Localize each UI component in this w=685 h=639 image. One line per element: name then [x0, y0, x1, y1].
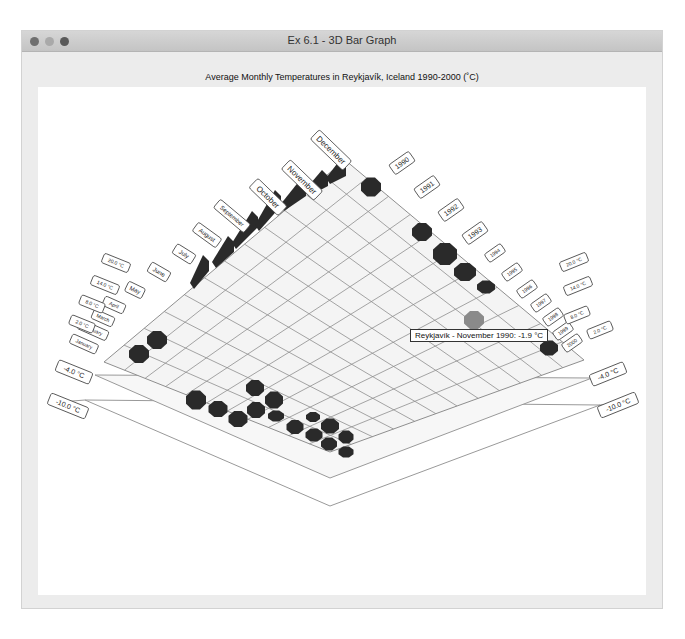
bar[interactable]: [306, 429, 323, 442]
bar[interactable]: [464, 311, 484, 329]
bar[interactable]: [477, 281, 495, 294]
bar[interactable]: [209, 401, 228, 417]
bar[interactable]: [306, 412, 320, 422]
bar[interactable]: [454, 263, 476, 281]
hover-tooltip: Reykjavík - November 1990: -1.9 °C: [410, 329, 548, 342]
bar[interactable]: [247, 402, 265, 418]
bar[interactable]: [321, 438, 337, 451]
chart-canvas[interactable]: JanuaryFebruaryMarchAprilMayJuneJulyAugu…: [0, 0, 685, 639]
bar[interactable]: [339, 431, 354, 444]
bar[interactable]: [246, 380, 264, 396]
bar[interactable]: [321, 419, 339, 434]
bar[interactable]: [229, 411, 248, 427]
bar[interactable]: [540, 341, 558, 356]
bar[interactable]: [361, 178, 381, 197]
bar[interactable]: [412, 223, 432, 241]
bar[interactable]: [147, 331, 167, 349]
bar[interactable]: [268, 411, 284, 422]
bar[interactable]: [339, 447, 354, 458]
bar[interactable]: [129, 345, 149, 363]
bar[interactable]: [186, 391, 206, 410]
